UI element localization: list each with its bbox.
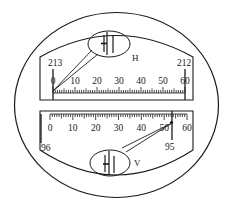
vertical-window: 0102030405060 96 95 V	[40, 111, 193, 176]
v-index-point	[170, 121, 173, 124]
h-degree-right-label: 212	[177, 58, 192, 68]
v-degree-left-label: 96	[41, 143, 51, 153]
scale-number: 30	[114, 123, 124, 133]
h-degree-left-label: 213	[48, 58, 63, 68]
h-scale-numbers: 0102030405060	[51, 76, 190, 86]
scale-number: 10	[68, 123, 78, 133]
scale-number: 60	[182, 123, 192, 133]
h-axis-letter: H	[132, 53, 139, 63]
h-scale-ticks	[53, 87, 185, 93]
split-index-lines-icon	[103, 151, 114, 175]
horizontal-window: 213 212 H 0102030405060	[40, 31, 193, 100]
scale-number: 10	[70, 76, 80, 86]
scale-number: 20	[91, 123, 101, 133]
field-of-view-circle	[15, 13, 219, 198]
scale-number: 40	[136, 76, 146, 86]
scale-number: 20	[92, 76, 102, 86]
theodolite-reading-diagram: 213 212 H 0102030405060 0102030405060 96…	[0, 0, 230, 208]
scale-number: 40	[137, 123, 147, 133]
v-magnifier-ellipse	[90, 150, 130, 176]
v-scale-ticks	[50, 114, 187, 120]
h-magnifier-ellipse	[88, 31, 130, 57]
v-degree-right-label: 95	[165, 142, 175, 152]
scale-number: 50	[158, 76, 168, 86]
scale-number: 30	[114, 76, 124, 86]
scale-number: 0	[48, 123, 53, 133]
v-axis-letter: V	[134, 158, 141, 168]
